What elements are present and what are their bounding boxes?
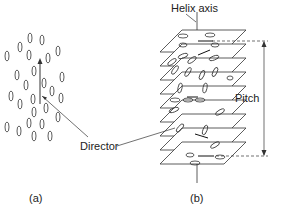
panel-a-caption: (a) bbox=[29, 192, 42, 204]
helix-axis-label: Helix axis bbox=[171, 2, 218, 14]
panel-a-nematic bbox=[5, 33, 88, 141]
liquid-crystal-diagram: Helix axis Director Pitch (a) (b) bbox=[0, 0, 281, 209]
panel-b-caption: (b) bbox=[190, 192, 203, 204]
pitch-label: Pitch bbox=[235, 92, 259, 104]
diagram-graphics bbox=[0, 0, 281, 209]
director-label: Director bbox=[80, 140, 119, 152]
